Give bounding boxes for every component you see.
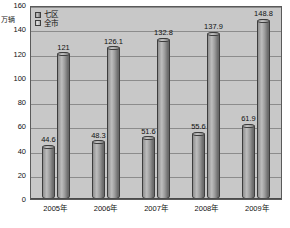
bar[interactable]: 137.9: [207, 32, 220, 199]
y-axis: 160140120100806040200: [0, 6, 30, 202]
x-axis-tick-label: 2006年: [80, 202, 130, 213]
legend-item-qiqu: 七区: [35, 11, 58, 19]
bar-wrapper: 44.6: [42, 7, 55, 199]
plot-area: 44.612148.3126.151.6132.855.6137.961.914…: [30, 6, 282, 200]
bar-wrapper: 126.1: [107, 7, 120, 199]
bar[interactable]: 132.8: [157, 38, 170, 199]
bar-group: 44.6121: [31, 7, 81, 199]
bar[interactable]: 51.6: [142, 136, 155, 199]
bar[interactable]: 126.1: [107, 46, 120, 199]
bar-value-label: 126.1: [104, 38, 123, 46]
bar-chart: 万辆 160140120100806040200 44.612148.3126.…: [0, 0, 290, 228]
bar[interactable]: 61.9: [242, 124, 255, 199]
x-axis-tick-label: 2009年: [232, 202, 282, 213]
bar-value-label: 48.3: [91, 132, 106, 140]
bar[interactable]: 148.8: [257, 19, 270, 199]
bar-group: 61.9148.8: [231, 7, 281, 199]
bar-group: 55.6137.9: [181, 7, 231, 199]
bar-group: 48.3126.1: [81, 7, 131, 199]
y-axis-tick-label: 40: [18, 148, 26, 156]
bar-wrapper: 51.6: [142, 7, 155, 199]
bar-wrapper: 55.6: [192, 7, 205, 199]
bar-groups: 44.612148.3126.151.6132.855.6137.961.914…: [31, 7, 281, 199]
x-axis-tick-label: 2005年: [30, 202, 80, 213]
bar[interactable]: 121: [57, 52, 70, 199]
y-axis-tick-label: 0: [22, 196, 26, 204]
bar-value-label: 121: [57, 44, 70, 52]
x-axis: 2005年2006年2007年2008年2009年: [30, 202, 282, 213]
legend: 七区 全市: [33, 9, 61, 29]
bar-wrapper: 132.8: [157, 7, 170, 199]
y-axis-tick-label: 20: [18, 172, 26, 180]
bar-wrapper: 137.9: [207, 7, 220, 199]
bar-value-label: 148.8: [254, 10, 273, 18]
bar-value-label: 51.6: [141, 128, 156, 136]
legend-label: 全市: [44, 20, 58, 28]
y-axis-tick-label: 80: [18, 99, 26, 107]
x-axis-baseline: [31, 198, 281, 199]
legend-label: 七区: [44, 11, 58, 19]
bar[interactable]: 44.6: [42, 145, 55, 199]
legend-swatch-icon: [35, 12, 41, 18]
x-axis-tick-label: 2008年: [181, 202, 231, 213]
x-axis-tick-label: 2007年: [131, 202, 181, 213]
bar-group: 51.6132.8: [131, 7, 181, 199]
y-axis-tick-label: 100: [13, 75, 26, 83]
bar-wrapper: 121: [57, 7, 70, 199]
bar-wrapper: 48.3: [92, 7, 105, 199]
legend-swatch-icon: [35, 20, 41, 26]
bar-value-label: 44.6: [41, 136, 56, 144]
bar-value-label: 61.9: [241, 115, 256, 123]
y-axis-tick-label: 60: [18, 124, 26, 132]
bar[interactable]: 48.3: [92, 140, 105, 199]
y-axis-tick-label: 160: [13, 2, 26, 10]
bar-wrapper: 61.9: [242, 7, 255, 199]
bar-wrapper: 148.8: [257, 7, 270, 199]
legend-item-quanshi: 全市: [35, 20, 58, 28]
bar-value-label: 55.6: [191, 123, 206, 131]
bar[interactable]: 55.6: [192, 132, 205, 199]
y-axis-tick-label: 120: [13, 51, 26, 59]
y-axis-tick-label: 140: [13, 27, 26, 35]
bar-value-label: 132.8: [154, 29, 173, 37]
bar-value-label: 137.9: [204, 23, 223, 31]
